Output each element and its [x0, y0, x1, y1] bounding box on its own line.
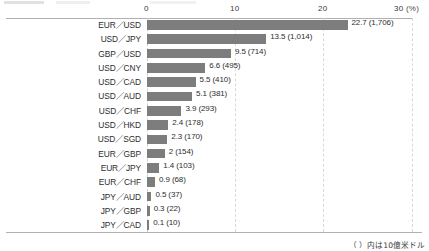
- xtick-label-20: 20: [318, 4, 327, 13]
- xtick-label-0: 0: [144, 4, 149, 13]
- bar-category-label: EUR／GBP: [0, 147, 141, 161]
- bar-value-label: 5.5 (410): [200, 74, 231, 86]
- xaxis-unit-label: (%): [406, 4, 419, 13]
- bar-fill: [147, 20, 348, 30]
- bar-category-label: USD／CAD: [0, 75, 141, 89]
- bar-category-label: USD／HKD: [0, 118, 141, 132]
- bar: [147, 106, 181, 116]
- bar: [147, 120, 168, 130]
- bar-category-label: EUR／USD: [0, 18, 141, 32]
- bar-row: USD／SGD2.3 (170): [0, 132, 429, 146]
- bar-fill: [147, 77, 196, 87]
- bar-fill: [147, 63, 205, 73]
- bar-chart: 0 10 20 30 (%) EUR／USD22.7 (1,706)USD／JP…: [0, 0, 429, 251]
- bar-fill: [147, 135, 167, 145]
- bar: [147, 149, 165, 159]
- bar-fill: [147, 34, 266, 44]
- bar-category-label: JPY／AUD: [0, 190, 141, 204]
- bar-row: USD／HKD2.4 (178): [0, 118, 429, 132]
- bar-value-label: 0.1 (10): [153, 217, 180, 229]
- bar-row: USD／CAD5.5 (410): [0, 75, 429, 89]
- bar-category-label: JPY／CAD: [0, 218, 141, 232]
- bar: [147, 135, 167, 145]
- bar: [147, 77, 196, 87]
- bar-fill: [147, 120, 168, 130]
- bar-value-label: 2.3 (170): [171, 131, 202, 143]
- bar-row: USD／JPY13.5 (1,014): [0, 32, 429, 46]
- bar-row: USD／AUD5.1 (381): [0, 89, 429, 103]
- bar-value-label: 9.5 (714): [235, 46, 266, 58]
- bar-category-label: EUR／JPY: [0, 161, 141, 175]
- bar: [147, 63, 205, 73]
- bar-category-label: USD／AUD: [0, 89, 141, 103]
- xtick-label-30: 30: [394, 4, 403, 13]
- bar-fill: [147, 177, 155, 187]
- xtick-label-10: 10: [230, 4, 239, 13]
- bar-fill: [147, 149, 165, 159]
- bar-fill: [147, 192, 151, 202]
- bar: [147, 49, 231, 59]
- bar-row: EUR／JPY1.4 (103): [0, 161, 429, 175]
- bar-value-label: 2 (154): [169, 146, 194, 158]
- bar-rows: EUR／USD22.7 (1,706)USD／JPY13.5 (1,014)GB…: [0, 18, 429, 232]
- bar-value-label: 6.6 (495): [209, 60, 240, 72]
- bar-fill: [147, 163, 159, 173]
- bar: [147, 20, 348, 30]
- bar-category-label: USD／CHF: [0, 104, 141, 118]
- bar-fill: [147, 92, 192, 102]
- bar-category-label: USD／CNY: [0, 61, 141, 75]
- bar-fill: [147, 49, 231, 59]
- bar-category-label: EUR／CHF: [0, 175, 141, 189]
- bar-value-label: 1.4 (103): [163, 160, 194, 172]
- bar-fill: [147, 220, 149, 230]
- bar-value-label: 0.5 (37): [155, 189, 182, 201]
- bar: [147, 206, 150, 216]
- bar-row: GBP／USD9.5 (714): [0, 47, 429, 61]
- bar-value-label: 13.5 (1,014): [270, 31, 312, 43]
- bar-row: EUR／CHF0.9 (68): [0, 175, 429, 189]
- bar-value-label: 0.9 (68): [159, 174, 186, 186]
- bar-fill: [147, 206, 150, 216]
- bar-row: JPY／AUD0.5 (37): [0, 190, 429, 204]
- bar-value-label: 22.7 (1,706): [352, 17, 394, 29]
- bar-row: USD／CNY6.6 (495): [0, 61, 429, 75]
- bar-value-label: 2.4 (178): [172, 117, 203, 129]
- bar-category-label: USD／SGD: [0, 132, 141, 146]
- bar: [147, 92, 192, 102]
- bar-row: JPY／CAD0.1 (10): [0, 218, 429, 232]
- cropped-header-artifact: [0, 0, 429, 5]
- bar-value-label: 3.9 (293): [185, 103, 216, 115]
- bar-category-label: JPY／GBP: [0, 204, 141, 218]
- bar-value-label: 5.1 (381): [196, 88, 227, 100]
- bar-value-label: 0.3 (22): [154, 203, 181, 215]
- bar: [147, 220, 149, 230]
- bar-row: JPY／GBP0.3 (22): [0, 204, 429, 218]
- bar-row: USD／CHF3.9 (293): [0, 104, 429, 118]
- bar-row: EUR／USD22.7 (1,706): [0, 18, 429, 32]
- bar: [147, 177, 155, 187]
- chart-footnote: （ ）内は10億米ドル: [349, 239, 425, 250]
- bar-row: EUR／GBP2 (154): [0, 147, 429, 161]
- bar-category-label: GBP／USD: [0, 47, 141, 61]
- bar-fill: [147, 106, 181, 116]
- bar: [147, 163, 159, 173]
- bar: [147, 34, 266, 44]
- bar-category-label: USD／JPY: [0, 32, 141, 46]
- bar: [147, 192, 151, 202]
